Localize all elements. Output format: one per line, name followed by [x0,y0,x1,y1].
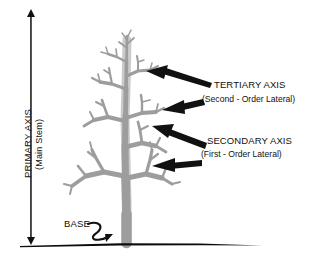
callout-arrow-tertiary-lower [162,99,205,114]
base-squiggle-arrow [88,223,108,240]
label-base: BASE [64,219,90,229]
branch-middle-left [84,100,125,126]
callout-arrow-secondary-upper [152,124,207,149]
label-primary-axis-subtitle: (Main Stem) [35,119,44,170]
branch-upper-right [126,95,164,118]
label-secondary-axis-subtitle: (First - Order Lateral) [201,150,282,159]
ground-line [20,243,262,247]
branch-upper-left [92,68,126,89]
diagram-canvas [0,0,319,264]
label-tertiary-axis-title: TERTIARY AXIS [214,80,286,90]
label-primary-axis-title: PRIMARY AXIS [23,109,33,178]
base-arrow-head [105,234,113,242]
label-secondary-axis-title: SECONDARY AXIS [207,136,292,146]
callout-arrow-tertiary-upper [146,65,212,88]
branch-lower-left [64,142,124,194]
tree-main-stem [125,36,127,243]
tree-figure [64,30,180,243]
callout-arrow-secondary-lower [152,158,202,172]
label-tertiary-axis-subtitle: (Second - Order Lateral) [202,95,295,104]
branching-diagram: TERTIARY AXIS (Second - Order Lateral) S… [0,0,319,264]
